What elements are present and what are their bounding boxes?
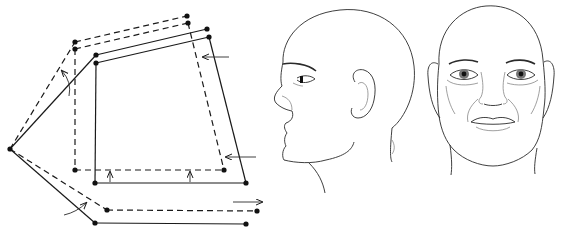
curved-arrow-top-icon xyxy=(62,71,70,96)
figure-canvas xyxy=(0,0,564,240)
profile-pupil xyxy=(300,76,303,83)
vertex-dots xyxy=(7,13,259,226)
perspective-diagram xyxy=(7,13,262,226)
frontal-face-drawing xyxy=(428,6,554,175)
solid-frame xyxy=(95,29,246,224)
dashed-frame xyxy=(75,16,257,211)
projection-rays xyxy=(10,42,107,223)
movement-arrows xyxy=(62,57,262,215)
profile-face-drawing xyxy=(274,10,414,193)
